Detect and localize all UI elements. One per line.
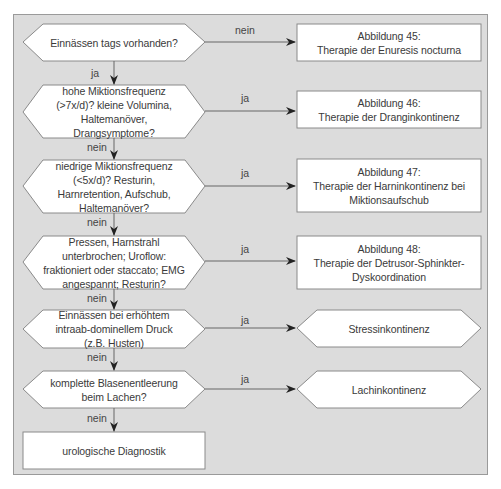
outcome-text-4: Abbildung 48: Therapie der Detrusor-Sphi… [305,236,473,289]
decision-text-4: Pressen, Harnstrahl unterbrochen; Uroflo… [40,236,188,289]
outcome-text-6: Lachinkontinenz [297,371,481,408]
branch-label-1: nein [235,24,255,36]
decision-text-1: Einnässen tags vorhanden? [45,24,183,61]
outcome-1-line2: Therapie der Enuresis nocturna [317,43,461,57]
outcome-3-line1: Abbildung 47: [358,165,421,179]
down-label-6: nein [87,412,107,424]
down-label-5: nein [87,351,107,363]
down-label-4: nein [87,292,107,304]
outcome-2-line1: Abbildung 46: [358,96,421,110]
final-text: urologische Diagnostik [23,432,205,469]
branch-label-2: ja [241,92,249,104]
decision-text-6: komplette Blasenentleerung beim Lachen? [45,371,183,408]
outcome-2-line2: Therapie der Dranginkontinenz [318,110,459,124]
branch-label-3: ja [241,167,249,179]
down-label-1: ja [91,67,99,79]
outcome-4-line2: Therapie der Detrusor-Sphinkter-Dyskoord… [305,256,473,284]
outcome-1-line1: Abbildung 45: [358,29,421,43]
outcome-text-3: Abbildung 47: Therapie der Harninkontine… [305,159,473,212]
outcome-text-1: Abbildung 45: Therapie der Enuresis noct… [297,24,481,61]
outcome-text-2: Abbildung 46: Therapie der Dranginkontin… [297,91,481,128]
down-label-3: nein [87,216,107,228]
outcome-3-line2: Therapie der Harninkontinenz bei Miktion… [305,179,473,207]
branch-label-6: ja [241,373,249,385]
outcome-text-5: Stressinkontinenz [297,310,481,347]
decision-text-3: niedrige Miktionsfrequenz (<5x/d)? Restu… [45,160,183,213]
branch-label-4: ja [241,243,249,255]
decision-text-5: Einnässen bei erhöhtem intraab-dominelle… [45,310,183,348]
branch-label-5: ja [241,314,249,326]
decision-text-2: hohe Miktionsfrequenz (>7x/d)? kleine Vo… [45,85,183,138]
outcome-4-line1: Abbildung 48: [358,242,421,256]
down-label-2: nein [87,141,107,153]
